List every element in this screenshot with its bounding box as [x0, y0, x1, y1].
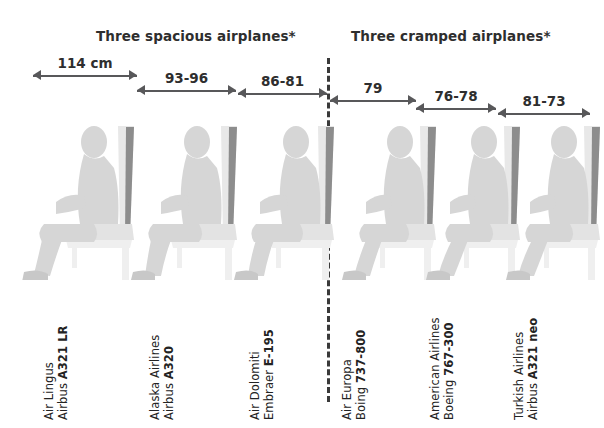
aircraft-name: Boeing 767-300 — [442, 280, 456, 420]
seat-label-6: Turkish Airlines Airbus A321 neo — [512, 280, 540, 420]
group-heading-spacious: Three spacious airplanes* — [96, 28, 296, 44]
arrowhead-right — [129, 70, 137, 80]
arrowhead-right — [488, 103, 496, 113]
seat-figure-6 — [502, 120, 604, 280]
carrier-name: Air Dolomiti — [248, 280, 262, 420]
carrier-name: Turkish Airlines — [512, 280, 526, 420]
seat-label-4: Air Europa Boing 737-800 — [340, 280, 368, 420]
seat-label-5: American Airlines Boeing 767-300 — [428, 280, 456, 420]
arrowhead-right — [408, 95, 416, 105]
seat-label-1: Air Lingus Airbus A321 LR — [42, 280, 70, 420]
seat-label-3: Air Dolomiti Embraer E-195 — [248, 280, 276, 420]
pitch-arrow-5 — [416, 101, 496, 117]
aircraft-name: Airbus A321 neo — [526, 280, 540, 420]
arrowhead-right — [228, 85, 236, 95]
arrow-bar — [33, 75, 137, 77]
pitch-arrow-1 — [33, 68, 137, 84]
arrow-bar — [238, 93, 327, 95]
arrowhead-right — [582, 108, 590, 118]
seat-label-2: Alaska Airlines Airbus A320 — [148, 280, 176, 420]
arrow-bar — [137, 90, 236, 92]
aircraft-name: Airbus A321 LR — [56, 280, 70, 420]
carrier-name: Air Europa — [340, 280, 354, 420]
aircraft-name: Airbus A320 — [162, 280, 176, 420]
carrier-name: American Airlines — [428, 280, 442, 420]
arrow-bar — [416, 108, 496, 110]
aircraft-name: Boing 737-800 — [354, 280, 368, 420]
pitch-arrow-2 — [137, 83, 236, 99]
arrowhead-right — [319, 88, 327, 98]
group-heading-cramped: Three cramped airplanes* — [351, 28, 551, 44]
pitch-arrow-3 — [238, 86, 327, 102]
carrier-name: Air Lingus — [42, 280, 56, 420]
arrow-bar — [330, 100, 416, 102]
aircraft-name: Embraer E-195 — [262, 280, 276, 420]
arrow-bar — [498, 113, 590, 115]
seat-figure-3 — [228, 120, 346, 280]
carrier-name: Alaska Airlines — [148, 280, 162, 420]
pitch-arrow-4 — [330, 93, 416, 109]
